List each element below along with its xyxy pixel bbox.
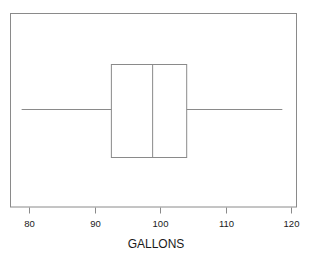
x-axis-tick-labels: 80 90 100 110 120 (24, 218, 299, 229)
x-axis-ticks (30, 208, 292, 214)
box-plot-canvas: 80 90 100 110 120 GALLONS (0, 0, 311, 259)
x-tick-label-0: 80 (24, 218, 35, 229)
iqr-box (111, 65, 186, 158)
x-tick-label-2: 100 (153, 218, 169, 229)
x-tick-label-1: 90 (90, 218, 101, 229)
x-tick-label-4: 120 (284, 218, 300, 229)
x-axis-title: GALLONS (128, 237, 185, 251)
box-plot-figure: 80 90 100 110 120 GALLONS (0, 0, 311, 259)
x-tick-label-3: 110 (219, 218, 234, 229)
